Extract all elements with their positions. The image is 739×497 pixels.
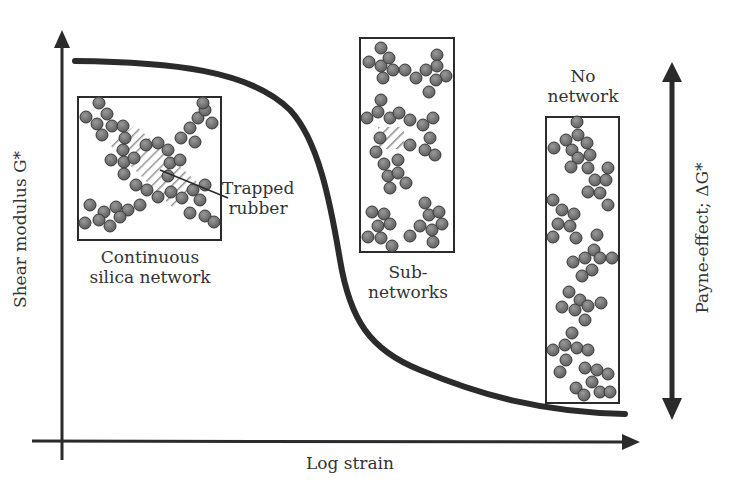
callout-line1: Trapped [222, 178, 294, 198]
payne-effect-label: Payne-effect; ΔG* [692, 158, 712, 318]
no-network-caption: No network [540, 66, 626, 106]
no-network-panel [546, 116, 619, 403]
caption-line: network [540, 86, 626, 106]
callout-line2: rubber [222, 198, 294, 218]
caption-line: No [540, 66, 626, 86]
x-axis-label: Log strain [290, 453, 410, 473]
sub-networks-panel [360, 38, 454, 252]
trapped-rubber-label: Trapped rubber [222, 178, 294, 218]
x-axis [32, 434, 640, 450]
caption-line: Continuous [70, 247, 230, 267]
continuous-network-panel [78, 97, 228, 240]
caption-line: networks [360, 282, 456, 302]
caption-line: silica network [70, 267, 230, 287]
payne-effect-double-arrow [662, 62, 682, 420]
y-axis-label: Shear modulus G* [10, 168, 30, 308]
continuous-network-caption: Continuous silica network [70, 247, 230, 287]
sub-networks-caption: Sub- networks [360, 262, 456, 302]
y-axis [54, 30, 70, 460]
caption-line: Sub- [360, 262, 456, 282]
